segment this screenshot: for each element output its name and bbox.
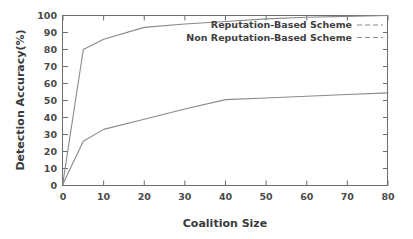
line-chart: 0102030405060708090100 01020304050607080… <box>0 0 413 239</box>
y-tick-label: 60 <box>44 78 58 89</box>
x-tick-label: 10 <box>97 191 111 202</box>
series-line-1 <box>63 93 388 184</box>
y-tick-label: 100 <box>37 10 57 21</box>
x-tick-label: 70 <box>341 191 355 202</box>
y-tick-label: 30 <box>44 129 58 140</box>
y-tick-label: 90 <box>44 27 58 38</box>
y-axis-title: Detection Accuracy(%) <box>14 29 27 170</box>
y-tick-label: 80 <box>44 44 58 55</box>
y-tick-label: 20 <box>44 146 58 157</box>
y-tick-label: 50 <box>44 95 58 106</box>
x-tick-label: 50 <box>260 191 274 202</box>
y-tick-label: 0 <box>50 180 57 191</box>
x-tick-label: 20 <box>138 191 152 202</box>
x-axis-title: Coalition Size <box>183 217 267 230</box>
chart-legend: Reputation-Based SchemeNon Reputation-Ba… <box>186 19 383 43</box>
x-axis-ticks: 01020304050607080 <box>60 16 395 202</box>
legend-label-0: Reputation-Based Scheme <box>211 19 352 30</box>
y-tick-label: 70 <box>44 61 58 72</box>
y-tick-label: 10 <box>44 163 58 174</box>
x-tick-label: 0 <box>60 191 67 202</box>
x-tick-label: 80 <box>381 191 395 202</box>
x-tick-label: 60 <box>300 191 314 202</box>
x-tick-label: 30 <box>178 191 192 202</box>
legend-label-1: Non Reputation-Based Scheme <box>186 32 352 43</box>
x-tick-label: 40 <box>219 191 233 202</box>
chart-page: 0102030405060708090100 01020304050607080… <box>0 0 413 239</box>
y-tick-label: 40 <box>44 112 58 123</box>
